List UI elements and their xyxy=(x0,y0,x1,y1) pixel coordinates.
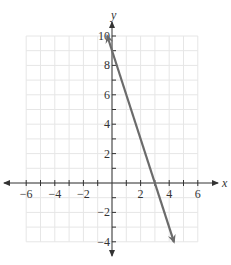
x-tick-label: −4 xyxy=(48,187,61,201)
x-axis-label: x xyxy=(221,176,228,190)
coordinate-plane-chart: −6−4−2246−4−2246810 x y xyxy=(0,0,231,265)
y-tick-label: 8 xyxy=(104,58,110,72)
y-tick-label: 6 xyxy=(104,88,110,102)
x-tick-label: −2 xyxy=(77,187,90,201)
y-tick-label: 4 xyxy=(104,117,110,131)
x-tick-label: 6 xyxy=(195,187,201,201)
x-tick-label: −6 xyxy=(20,187,33,201)
y-tick-label: 2 xyxy=(104,147,110,161)
y-axis-label: y xyxy=(110,8,117,22)
x-tick-label: 4 xyxy=(166,187,172,201)
y-tick-label: −2 xyxy=(97,205,110,219)
y-tick-label: −4 xyxy=(97,235,110,249)
x-tick-label: 2 xyxy=(138,187,144,201)
